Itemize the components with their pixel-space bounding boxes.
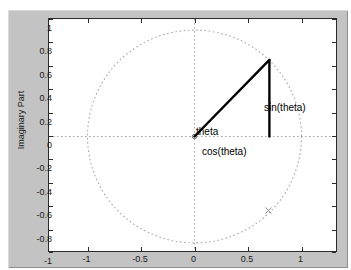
clipped-title-strip: — — — — — — — — — —	[0, 0, 351, 9]
ytick-mark-right	[332, 89, 336, 90]
xtick-mark-top	[141, 19, 142, 23]
ytick-mark-right	[332, 136, 336, 137]
annotation-sin-theta: sin(theta)	[264, 103, 306, 113]
y-tick-label: -0.6	[36, 210, 52, 220]
y-tick-label: 0.8	[39, 46, 52, 56]
annotation-cos-theta: cos(theta)	[202, 147, 246, 157]
x-tick-label-row: -1 -0.5 0 0.5 1	[48, 254, 337, 268]
xtick-mark	[195, 247, 196, 251]
y-tick-label: -0.8	[36, 234, 52, 244]
ytick-mark-right	[332, 42, 336, 43]
ytick-mark-right	[332, 206, 336, 207]
ytick-mark	[49, 19, 53, 20]
circle-cross-marker	[265, 208, 271, 214]
x-tick-label: 1	[298, 254, 303, 264]
plot-drawing-layer	[49, 19, 336, 251]
hypotenuse-radius-line	[195, 60, 270, 137]
xtick-mark	[88, 247, 89, 251]
y-tick-label: 0	[47, 140, 52, 150]
annotation-theta: theta	[196, 127, 218, 137]
xtick-mark	[141, 247, 142, 251]
ytick-mark-right	[332, 183, 336, 184]
xtick-mark-top	[248, 19, 249, 23]
xtick-mark-top	[195, 19, 196, 23]
plot-axes: theta cos(theta) sin(theta)	[48, 18, 337, 252]
y-tick-label: 0.2	[39, 117, 52, 127]
y-tick-label: 1	[47, 23, 52, 33]
matlab-figure-canvas: theta cos(theta) sin(theta)	[8, 10, 348, 268]
xtick-mark-top	[302, 19, 303, 23]
y-tick-label: -0.2	[36, 163, 52, 173]
ytick-mark-right	[332, 252, 336, 253]
x-tick-label: 0	[191, 254, 196, 264]
ytick-mark-right	[332, 230, 336, 231]
y-tick-label: 0.4	[39, 93, 52, 103]
xtick-mark	[248, 247, 249, 251]
y-tick-label: 0.6	[39, 70, 52, 80]
x-tick-label: -0.5	[132, 254, 148, 264]
plot-svg	[49, 19, 336, 251]
ytick-mark-right	[332, 113, 336, 114]
y-tick-label: -0.4	[36, 187, 52, 197]
clipped-title-text: — — — — — — — — — —	[4, 0, 120, 4]
xtick-mark	[302, 247, 303, 251]
x-tick-label: 0.5	[241, 254, 254, 264]
xtick-mark-top	[88, 19, 89, 23]
ytick-mark-right	[332, 66, 336, 67]
figure-window: — — — — — — — — — —	[0, 0, 351, 270]
y-axis-title: Imaginary Part	[16, 80, 26, 160]
ytick-mark-right	[332, 19, 336, 20]
ytick-mark-right	[332, 159, 336, 160]
x-tick-label: -1	[82, 254, 90, 264]
